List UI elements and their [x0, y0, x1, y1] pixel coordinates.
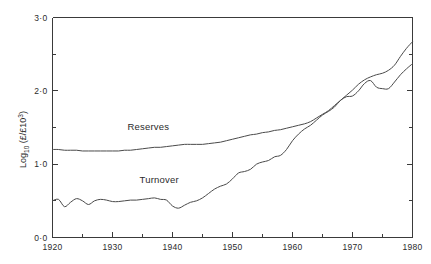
annotation-reserves: Reserves	[128, 121, 170, 132]
chart-figure: 19201930194019501960197019800·01·02·03·0…	[0, 0, 431, 264]
x-tick-label: 1980	[402, 242, 422, 252]
data-series	[53, 42, 413, 208]
x-tick-label: 1920	[42, 242, 62, 252]
x-tick-label: 1950	[222, 242, 242, 252]
y-axis-title-unit-close: )	[18, 111, 28, 114]
y-tick-label: 1·0	[34, 159, 47, 169]
x-tick-label: 1930	[102, 242, 122, 252]
svg-text:Log10 (£/£103): Log10 (£/£103)	[17, 111, 30, 168]
chart-plot: 19201930194019501960197019800·01·02·03·0…	[0, 0, 431, 264]
x-tick-label: 1960	[282, 242, 302, 252]
axis-ticks	[53, 18, 413, 238]
series-line-reserves	[53, 42, 413, 151]
y-tick-label: 0·0	[34, 233, 47, 243]
y-tick-label: 2·0	[34, 86, 47, 96]
y-axis-title-unit-open: (£/£10	[18, 118, 28, 146]
y-axis-title-base: Log	[18, 153, 28, 168]
axis-tick-labels: 19201930194019501960197019800·01·02·03·0	[34, 13, 422, 252]
annotation-turnover: Turnover	[140, 174, 179, 185]
y-tick-label: 3·0	[34, 13, 47, 23]
x-tick-label: 1970	[342, 242, 362, 252]
x-tick-label: 1940	[162, 242, 182, 252]
series-annotations: ReservesTurnover	[128, 121, 179, 184]
series-line-turnover	[53, 64, 413, 208]
axis-frame	[53, 18, 413, 238]
y-axis-title: Log10 (£/£103)	[17, 111, 30, 168]
